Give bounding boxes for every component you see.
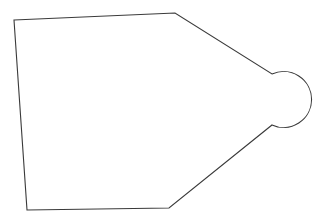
pentagon-with-circular-cap-outline xyxy=(14,13,312,210)
diagram-canvas xyxy=(0,0,325,224)
shape-drawing xyxy=(0,0,325,224)
